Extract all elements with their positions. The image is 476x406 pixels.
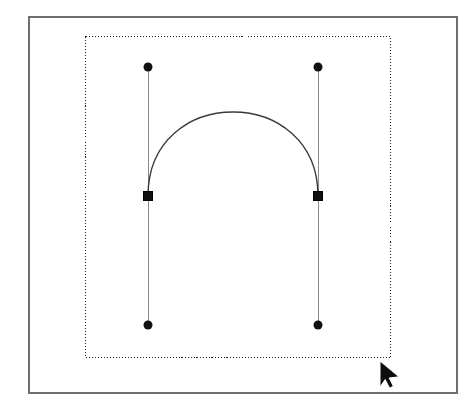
handle-point-left-bottom[interactable] [144,321,153,330]
editor-canvas-root: Vector Path Editor Canvas Direct Selecti… [0,0,476,406]
anchor-point-right[interactable] [314,192,323,201]
handle-point-left-top[interactable] [144,63,153,72]
drawing-canvas[interactable] [0,0,476,406]
anchor-point-left[interactable] [144,192,153,201]
canvas-background [0,0,476,406]
handle-point-right-bottom[interactable] [314,321,323,330]
handle-point-right-top[interactable] [314,63,323,72]
